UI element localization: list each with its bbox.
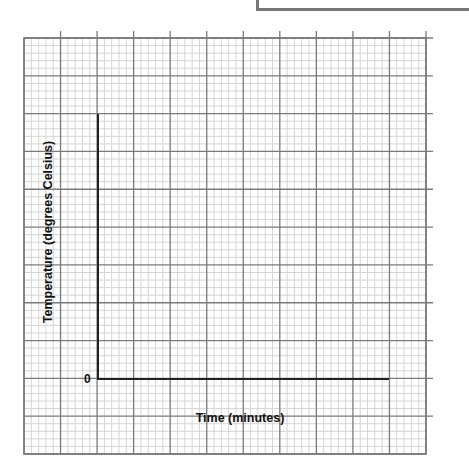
origin-label: 0 — [84, 372, 91, 386]
grid-border — [24, 38, 426, 454]
x-axis-label: Time (minutes) — [196, 411, 285, 425]
y-axis-label: Temperature (degrees Celsius) — [41, 141, 55, 323]
